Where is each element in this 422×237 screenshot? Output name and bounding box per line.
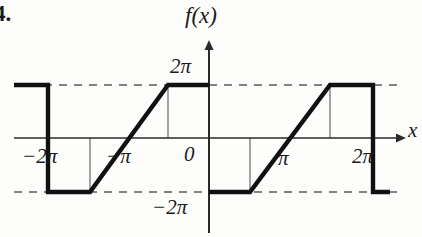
- x-tick-label-neg-2pi: −2π: [22, 146, 57, 167]
- x-axis-arrowhead: [396, 134, 406, 143]
- x-tick-label-pi: π: [278, 148, 289, 169]
- y-tick-label-neg-2pi: −2π: [152, 197, 187, 218]
- problem-number: 4.: [0, 2, 11, 25]
- y-axis-arrowhead: [205, 40, 214, 50]
- x-axis-variable-label: x: [408, 120, 417, 141]
- function-graph: [0, 0, 422, 237]
- origin-label: 0: [184, 144, 195, 165]
- y-tick-label-2pi: 2π: [170, 56, 191, 77]
- x-tick-label-2pi: 2π: [352, 146, 373, 167]
- figure-page: 4. f(x) 2π −2π 0 −2π −π π 2π x: [0, 0, 422, 237]
- function-name-label: f(x): [185, 4, 217, 27]
- x-tick-label-neg-pi: −π: [106, 146, 131, 167]
